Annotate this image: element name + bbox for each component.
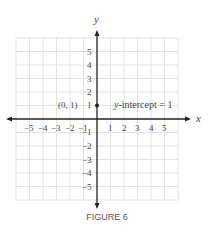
y-tick-3: 3	[87, 75, 92, 84]
x-tick-neg4: −4	[38, 124, 48, 133]
y-tick-2: 2	[87, 88, 92, 97]
y-axis-down-arrow-icon	[95, 203, 100, 209]
x-tick-neg2: −2	[65, 124, 75, 133]
x-tick-neg5: −5	[24, 124, 34, 133]
x-tick-2: 2	[122, 124, 127, 133]
x-tick-neg1: −1	[78, 124, 88, 133]
x-tick-3: 3	[135, 124, 140, 133]
y-tick-neg5: −5	[82, 183, 92, 192]
intercept-text: -intercept = 1	[118, 99, 172, 110]
y-axis-label: y	[94, 13, 99, 25]
y-tick-1: 1	[87, 101, 92, 110]
y-tick-4: 4	[87, 61, 92, 70]
coordinate-plane	[0, 0, 214, 232]
x-tick-5: 5	[162, 124, 167, 133]
axes	[9, 33, 188, 206]
y-tick-neg3: −3	[82, 156, 92, 165]
y-tick-5: 5	[87, 48, 92, 57]
x-tick-4: 4	[149, 124, 154, 133]
figure-caption: FIGURE 6	[0, 212, 214, 222]
point-0-1	[95, 104, 99, 108]
point-label: (0, 1)	[58, 101, 78, 110]
y-axis-up-arrow-icon	[95, 30, 100, 36]
x-tick-1: 1	[108, 124, 113, 133]
x-axis-left-arrow-icon	[6, 117, 12, 122]
x-tick-neg3: −3	[51, 124, 61, 133]
x-axis-right-arrow-icon	[185, 117, 191, 122]
intercept-annotation: y-intercept = 1	[114, 100, 172, 109]
y-tick-neg2: −2	[82, 142, 92, 151]
x-axis-label: x	[196, 112, 201, 124]
y-tick-neg4: −4	[82, 169, 92, 178]
